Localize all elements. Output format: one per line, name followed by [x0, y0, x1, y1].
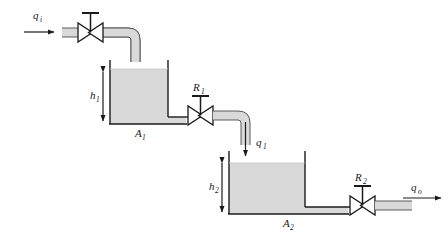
outlet-flow-label-sub: o [418, 187, 422, 196]
hydraulic-system-diagram: q i [0, 0, 448, 238]
outlet-pipe [375, 201, 412, 210]
intermediate-pipe [213, 111, 250, 145]
valve-r1[interactable] [188, 96, 213, 125]
area-1-label: A [134, 127, 142, 139]
valve-r2-label-sub: 2 [363, 177, 367, 186]
area-2-label: A [282, 217, 290, 229]
intermediate-flow-label: q [256, 136, 262, 148]
tank-1 [109, 60, 188, 124]
intermediate-flow-label-sub: 1 [263, 142, 267, 151]
tank-2 [228, 151, 350, 214]
area-2-label-sub: 2 [290, 223, 294, 232]
height-2-label-sub: 2 [215, 186, 219, 195]
valve-r2-label: R [354, 171, 362, 183]
diagram-canvas: q i [0, 0, 448, 238]
valve-r1-label-sub: 1 [201, 87, 205, 96]
valve-r1-label: R [192, 81, 200, 93]
valve-r2[interactable] [350, 186, 375, 215]
area-1-label-sub: 1 [142, 133, 146, 142]
outlet-flow-label: q [411, 181, 417, 193]
inlet-valve[interactable] [78, 13, 103, 42]
height-1-label-sub: 1 [96, 95, 100, 104]
inlet-flow-label: q [33, 9, 39, 21]
inlet-flow-label-sub: i [40, 15, 42, 24]
